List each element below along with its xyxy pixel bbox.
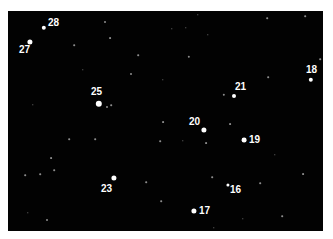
background-star	[185, 27, 186, 28]
background-star	[281, 215, 283, 217]
background-star	[162, 79, 163, 80]
background-star	[259, 182, 261, 184]
background-star	[109, 37, 111, 39]
background-star	[197, 14, 198, 15]
star-label-16: 16	[230, 185, 241, 195]
star-25	[96, 101, 102, 107]
background-star	[159, 140, 161, 142]
background-star	[39, 173, 41, 175]
star-label-18: 18	[306, 65, 317, 75]
star-label-25: 25	[91, 87, 102, 97]
background-star	[82, 69, 83, 70]
star-label-23: 23	[101, 184, 112, 194]
background-star	[304, 15, 306, 17]
star-label-17: 17	[199, 206, 210, 216]
background-star	[73, 44, 75, 46]
background-star	[242, 218, 243, 219]
background-star	[182, 140, 183, 141]
star-label-19: 19	[249, 135, 260, 145]
background-star	[162, 121, 164, 123]
background-star	[24, 174, 26, 176]
background-star	[145, 181, 147, 183]
background-star	[267, 76, 269, 78]
background-star	[205, 142, 207, 144]
background-star	[302, 173, 304, 175]
star-23	[111, 175, 116, 180]
background-star	[32, 104, 33, 105]
background-star	[223, 94, 225, 96]
background-star	[171, 28, 172, 29]
background-star	[27, 212, 28, 213]
background-star	[46, 219, 48, 221]
star-17	[191, 208, 196, 213]
background-star	[106, 106, 108, 108]
background-star	[53, 169, 55, 171]
star-label-28: 28	[48, 18, 59, 28]
star-label-27: 27	[19, 45, 30, 55]
star-label-21: 21	[235, 82, 246, 92]
background-star	[130, 73, 132, 75]
background-star	[207, 34, 208, 35]
background-star	[110, 104, 112, 106]
background-star	[160, 200, 162, 202]
background-star	[274, 154, 275, 155]
background-star	[188, 56, 190, 58]
star-28	[42, 26, 46, 30]
background-star	[266, 17, 268, 19]
star-20	[201, 127, 206, 132]
background-star	[211, 176, 213, 178]
background-star	[50, 157, 52, 159]
background-star	[319, 58, 321, 60]
background-star	[229, 123, 231, 125]
background-star	[104, 21, 106, 23]
star-18	[309, 78, 313, 82]
background-star	[68, 138, 70, 140]
star-19	[242, 138, 247, 143]
background-star	[213, 227, 214, 228]
star-21	[232, 94, 236, 98]
star-field-image: 28272521182019231617	[8, 11, 323, 231]
star-label-20: 20	[189, 117, 200, 127]
background-star	[94, 138, 96, 140]
background-star	[137, 54, 139, 56]
